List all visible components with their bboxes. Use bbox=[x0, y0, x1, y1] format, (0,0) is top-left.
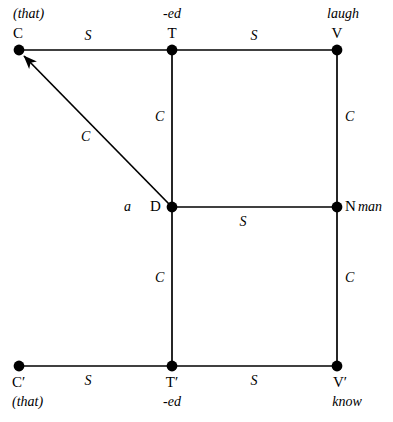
node-cprime[interactable] bbox=[14, 361, 25, 372]
node-label-v: V bbox=[332, 26, 343, 41]
edge-label-d-tprime: C bbox=[155, 271, 164, 285]
gloss-n: man bbox=[358, 200, 382, 214]
edge-label-c-t: S bbox=[85, 29, 92, 43]
node-tprime[interactable] bbox=[167, 361, 178, 372]
graph-canvas bbox=[0, 0, 393, 422]
node-d[interactable] bbox=[167, 202, 178, 213]
syntax-diagram: (that) C -ed T laugh V S S C C C a D N m… bbox=[0, 0, 393, 422]
edge-label-tprime-vprime: S bbox=[251, 374, 258, 388]
edge-label-cprime-tprime: S bbox=[85, 374, 92, 388]
node-label-t: T bbox=[167, 26, 176, 41]
node-label-n: N bbox=[345, 199, 356, 214]
edge-label-d-n: S bbox=[240, 215, 247, 229]
edge-label-n-vprime: C bbox=[345, 271, 354, 285]
node-vprime[interactable] bbox=[332, 361, 343, 372]
node-label-tprime: T′ bbox=[166, 375, 178, 390]
node-c[interactable] bbox=[14, 45, 25, 56]
node-label-cprime: C′ bbox=[12, 375, 25, 390]
node-label-vprime: V′ bbox=[333, 375, 347, 390]
gloss-t: -ed bbox=[163, 7, 181, 21]
gloss-cprime: (that) bbox=[12, 395, 43, 409]
edge-label-t-v: S bbox=[251, 29, 258, 43]
node-v[interactable] bbox=[332, 45, 343, 56]
edge-movement-d-c bbox=[24, 56, 170, 205]
gloss-v: laugh bbox=[327, 7, 359, 21]
edge-label-movement: C bbox=[81, 130, 90, 144]
node-n[interactable] bbox=[332, 202, 343, 213]
gloss-tprime: -ed bbox=[163, 395, 181, 409]
edge-label-t-d: C bbox=[155, 110, 164, 124]
gloss-d: a bbox=[124, 200, 131, 214]
node-label-c: C bbox=[13, 26, 23, 41]
gloss-c: (that) bbox=[13, 7, 44, 21]
node-label-d: D bbox=[150, 199, 161, 214]
gloss-vprime: know bbox=[332, 395, 362, 409]
node-t[interactable] bbox=[167, 45, 178, 56]
edge-label-v-n: C bbox=[345, 110, 354, 124]
